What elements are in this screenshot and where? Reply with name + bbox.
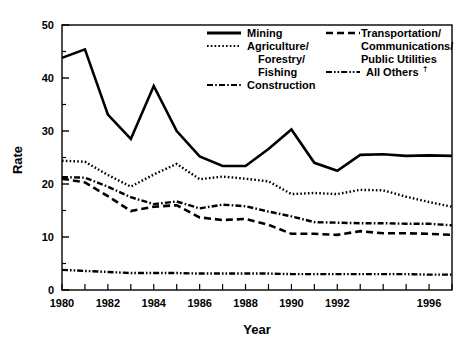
chart-figure: 01020304050 1980198219841986198819901992… [0,0,474,344]
line-chart: 01020304050 1980198219841986198819901992… [0,0,474,344]
series-line-3 [62,179,452,235]
y-tick-label-40: 40 [42,72,54,84]
y-tick-label-0: 0 [48,284,54,296]
series-line-2 [62,177,452,225]
chart-legend: Mining Agriculture/ Forestry/ Fishing Co… [207,27,453,91]
x-tick-label-1980: 1980 [50,297,74,309]
y-tick-label-20: 20 [42,178,54,190]
y-axis-title: Rate [10,146,25,174]
y-axis-ticks [62,25,69,290]
legend-label-allothers: All Others [366,66,419,78]
x-axis-title: Year [243,322,270,337]
y-tick-label-50: 50 [42,19,54,31]
legend-label-transportation-line2: Communications/ [361,40,453,52]
x-tick-label-1992: 1992 [325,297,349,309]
x-tick-label-1996: 1996 [417,297,441,309]
y-axis-tick-labels: 01020304050 [42,19,54,296]
y-tick-label-10: 10 [42,231,54,243]
y-tick-label-30: 30 [42,125,54,137]
x-tick-label-1990: 1990 [279,297,303,309]
legend-label-mining: Mining [247,27,282,39]
x-axis-tick-labels: 19801982198419861988199019921996 [50,297,442,309]
x-tick-label-1984: 1984 [142,297,167,309]
x-axis-ticks [62,284,452,290]
legend-label-transportation-line1: Transportation/ [361,27,441,39]
legend-label-agriculture-line3: Fishing [258,66,297,78]
series-line-1 [62,161,452,207]
x-tick-label-1986: 1986 [187,297,211,309]
x-tick-label-1988: 1988 [233,297,257,309]
legend-label-agriculture-line2: Forestry/ [258,53,305,65]
legend-label-allothers-dagger: † [423,64,427,73]
x-tick-label-1982: 1982 [96,297,120,309]
legend-label-construction: Construction [247,79,316,91]
legend-label-agriculture-line1: Agriculture/ [247,40,309,52]
series-line-4 [62,270,452,275]
